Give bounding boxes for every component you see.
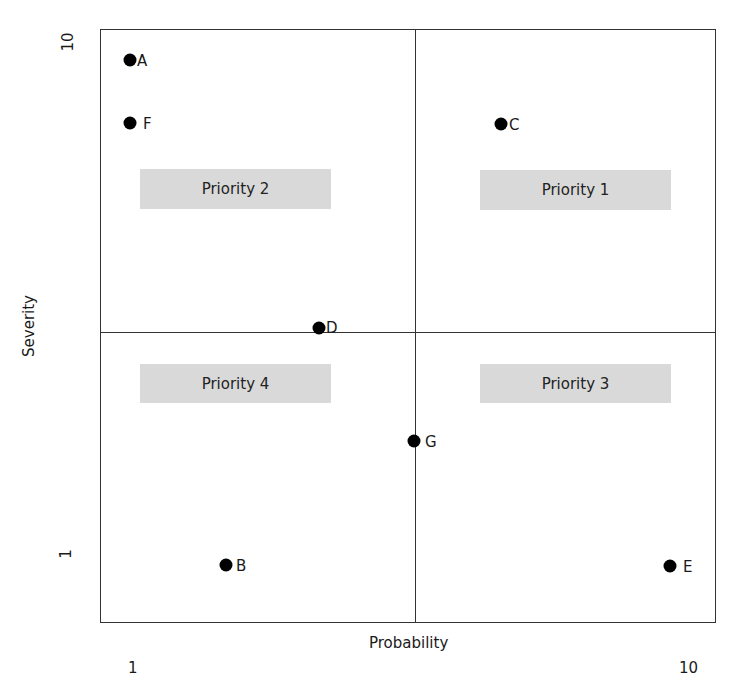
quadrant-label: Priority 2 (202, 180, 270, 198)
quadrant-priority-1: Priority 1 (480, 170, 671, 210)
point-label-c: C (509, 116, 519, 134)
point-label-f: F (143, 115, 152, 133)
quadrant-priority-4: Priority 4 (140, 364, 331, 403)
quadrant-priority-2: Priority 2 (140, 169, 331, 209)
quadrant-label: Priority 4 (202, 375, 270, 393)
plot-frame (100, 29, 716, 623)
data-point-b (220, 559, 233, 572)
x-tick-min: 1 (128, 659, 138, 677)
quadrant-label: Priority 1 (542, 181, 610, 199)
data-point-d (313, 322, 326, 335)
point-label-e: E (683, 558, 692, 576)
quadrant-label: Priority 3 (542, 375, 610, 393)
point-label-g: G (425, 433, 437, 451)
data-point-a (124, 54, 137, 67)
probability-divider (415, 29, 416, 623)
point-label-d: D (326, 319, 338, 337)
data-point-c (495, 118, 508, 131)
y-tick-min: 1 (57, 549, 75, 559)
x-axis-label: Probability (369, 634, 448, 652)
y-axis-label: Severity (20, 295, 38, 357)
x-tick-max: 10 (679, 659, 698, 677)
y-tick-max: 10 (59, 32, 77, 51)
quadrant-priority-3: Priority 3 (480, 364, 671, 403)
data-point-f (124, 117, 137, 130)
data-point-g (408, 435, 421, 448)
severity-divider (100, 332, 716, 333)
data-point-e (664, 560, 677, 573)
point-label-a: A (137, 52, 147, 70)
point-label-b: B (236, 557, 246, 575)
